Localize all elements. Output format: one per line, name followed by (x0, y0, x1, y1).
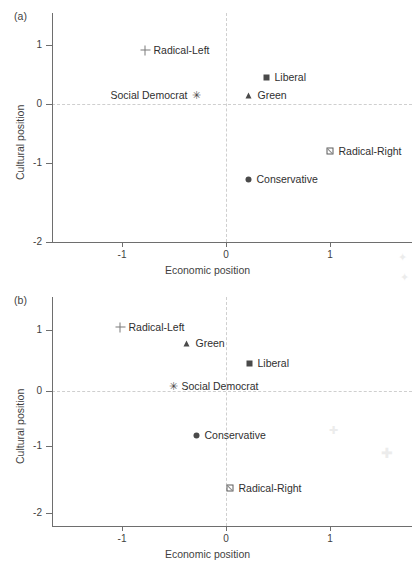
panel-b-xtick-m1 (122, 526, 123, 531)
figure-two-panel-scatter: (a) 1 0 -1 -2 -1 0 1 Economic position C… (0, 0, 415, 568)
panel-b: (b) 1 0 -1 -2 -1 0 1 Economic position C… (0, 284, 415, 568)
point-social-democrat[interactable]: Social Democrat (168, 381, 259, 392)
plus-marker-icon (115, 322, 126, 333)
asterisk-marker-icon (168, 381, 179, 392)
square-marker-icon (244, 358, 255, 369)
panel-a-x-axis-line (52, 242, 412, 243)
scan-artifact: ✦ (400, 272, 409, 283)
point-conservative[interactable]: Conservative (243, 174, 318, 185)
panel-b-y-axis-title: Cultural position (14, 389, 26, 464)
point-label: Radical-Left (154, 45, 210, 56)
panel-a-label: (a) (14, 10, 27, 22)
triangle-marker-icon (182, 338, 193, 349)
panel-a: (a) 1 0 -1 -2 -1 0 1 Economic position C… (0, 0, 415, 284)
point-label: Conservative (205, 430, 266, 441)
point-label: Radical-Left (129, 322, 185, 333)
triangle-marker-icon (244, 90, 255, 101)
panel-a-xticklabel-m1: -1 (107, 249, 137, 260)
panel-a-xtick-1 (330, 242, 331, 247)
panel-b-yticklabel-m2: -2 (18, 507, 42, 518)
panel-a-yticklabel-1: 1 (18, 39, 42, 50)
point-label: Liberal (275, 72, 307, 83)
point-liberal[interactable]: Liberal (261, 72, 307, 83)
panel-b-yticklabel-1: 1 (18, 324, 42, 335)
circle-marker-icon (243, 174, 254, 185)
point-label: Radical-Right (239, 483, 302, 494)
panel-b-ytick-m1 (46, 446, 52, 447)
panel-a-y-axis-line (52, 13, 53, 243)
panel-b-xticklabel-0: 0 (211, 533, 241, 544)
panel-b-y-axis-line (52, 297, 53, 527)
panel-b-xtick-1 (330, 526, 331, 531)
point-label: Liberal (258, 358, 290, 369)
point-radical-right[interactable]: Radical-Right (225, 483, 302, 494)
scan-artifact: ✚ (381, 448, 393, 459)
panel-a-ytick-0 (46, 104, 52, 105)
point-label: Green (196, 338, 225, 349)
point-label: Radical-Right (339, 146, 402, 157)
panel-b-xticklabel-m1: -1 (107, 533, 137, 544)
panel-b-ytick-0 (46, 391, 52, 392)
panel-b-xtick-0 (226, 526, 227, 531)
panel-a-ytick-m1 (46, 163, 52, 164)
point-green[interactable]: Green (182, 338, 225, 349)
panel-b-xticklabel-1: 1 (315, 533, 345, 544)
point-label: Conservative (257, 174, 318, 185)
boxed-x-marker-icon (325, 146, 336, 157)
panel-b-ytick-m2 (46, 513, 52, 514)
scan-artifact: ✦ (398, 252, 407, 263)
point-radical-left[interactable]: Radical-Left (115, 322, 185, 333)
asterisk-marker-icon (191, 90, 202, 101)
point-label: Social Democrat (182, 381, 259, 392)
scan-artifact: ✚ (329, 425, 338, 436)
point-liberal[interactable]: Liberal (244, 358, 290, 369)
panel-a-xtick-m1 (122, 242, 123, 247)
point-radical-left[interactable]: Radical-Left (140, 45, 210, 56)
panel-a-y-axis-title: Cultural position (14, 105, 26, 180)
panel-a-ytick-m2 (46, 242, 52, 243)
panel-a-xtick-0 (226, 242, 227, 247)
panel-a-gridline-x0 (226, 13, 227, 242)
point-label: Social Democrat (110, 90, 187, 101)
point-conservative[interactable]: Conservative (191, 430, 266, 441)
panel-a-yticklabel-m2: -2 (18, 236, 42, 247)
panel-b-x-axis-title: Economic position (0, 548, 415, 560)
panel-b-ytick-1 (46, 330, 52, 331)
point-green[interactable]: Green (244, 90, 287, 101)
square-marker-icon (261, 72, 272, 83)
point-social-democrat[interactable]: Social Democrat (110, 90, 201, 101)
panel-a-x-axis-title: Economic position (0, 264, 415, 276)
point-radical-right[interactable]: Radical-Right (325, 146, 402, 157)
panel-a-xticklabel-0: 0 (211, 249, 241, 260)
panel-b-x-axis-line (52, 526, 412, 527)
panel-a-xticklabel-1: 1 (315, 249, 345, 260)
circle-marker-icon (191, 430, 202, 441)
plus-marker-icon (140, 45, 151, 56)
panel-a-ytick-1 (46, 45, 52, 46)
point-label: Green (258, 90, 287, 101)
boxed-x-marker-icon (225, 483, 236, 494)
panel-b-label: (b) (14, 294, 27, 306)
panel-a-gridline-y0 (52, 104, 412, 105)
